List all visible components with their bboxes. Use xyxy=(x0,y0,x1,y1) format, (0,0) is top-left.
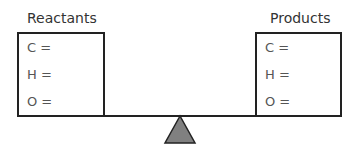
reactants-box: C = H = O = xyxy=(17,32,105,117)
products-box: C = H = O = xyxy=(255,32,342,117)
fulcrum-icon xyxy=(160,114,200,146)
reactants-carbon: C = xyxy=(27,40,51,55)
products-hydrogen: H = xyxy=(265,67,290,82)
reactants-title: Reactants xyxy=(27,10,97,26)
products-carbon: C = xyxy=(265,40,289,55)
reactants-hydrogen: H = xyxy=(27,67,52,82)
products-oxygen: O = xyxy=(265,94,290,109)
products-title: Products xyxy=(270,10,330,26)
reactants-oxygen: O = xyxy=(27,94,52,109)
